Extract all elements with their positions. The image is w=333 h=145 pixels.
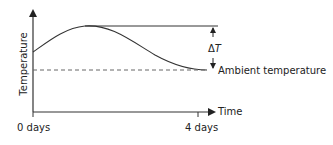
temperature-diagram: ΔT Ambient temperature Temperature Time … bbox=[0, 0, 333, 145]
x-tick-label-start: 0 days bbox=[17, 122, 50, 133]
y-axis-label: Temperature bbox=[18, 32, 29, 96]
ambient-temperature-label: Ambient temperature bbox=[218, 65, 326, 76]
delta-t-label: ΔT bbox=[208, 43, 222, 54]
x-tick-label-end: 4 days bbox=[185, 122, 218, 133]
temperature-curve bbox=[33, 26, 207, 70]
x-axis-label: Time bbox=[217, 106, 242, 117]
